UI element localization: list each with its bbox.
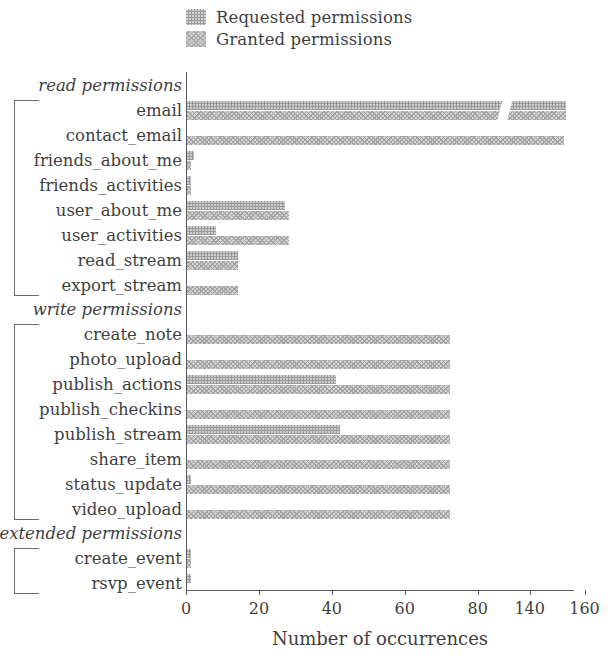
category-label: export_stream	[61, 278, 182, 295]
x-tick	[259, 590, 260, 595]
x-tick-label: 140	[514, 599, 545, 618]
bar-requested	[187, 251, 238, 260]
bar-row: status_update	[186, 472, 574, 497]
x-tick-label: 40	[322, 599, 342, 618]
category-label: contact_email	[66, 128, 182, 145]
x-tick	[585, 590, 586, 595]
bar-row: publish_stream	[186, 422, 574, 447]
legend-label-requested: Requested permissions	[216, 8, 412, 27]
bar-requested	[187, 574, 191, 583]
bar-granted	[187, 460, 450, 469]
bar-row: publish_checkins	[186, 397, 574, 422]
bar-granted	[187, 261, 238, 270]
group-bracket	[14, 548, 39, 594]
category-label: status_update	[65, 477, 182, 494]
bar-granted	[187, 410, 450, 419]
category-label: publish_actions	[52, 377, 182, 394]
category-label: share_item	[90, 452, 182, 469]
category-label: user_about_me	[56, 203, 182, 220]
bar-row: create_note	[186, 322, 574, 347]
x-tick-label: 160	[569, 599, 600, 618]
bar-row: rsvp_event	[186, 571, 574, 596]
category-label: photo_upload	[69, 352, 182, 369]
bar-granted	[187, 286, 238, 295]
bar-requested	[187, 151, 194, 160]
bar-granted	[187, 559, 191, 568]
chart-figure: Requested permissions Granted permission…	[0, 0, 610, 664]
category-label: publish_stream	[54, 427, 182, 444]
bar-granted	[187, 360, 450, 369]
bar-requested	[187, 176, 191, 185]
bar-granted	[187, 485, 450, 494]
bar-requested	[187, 425, 340, 434]
bar-granted	[187, 236, 289, 245]
x-tick-label: 20	[249, 599, 269, 618]
x-tick-label: 60	[395, 599, 415, 618]
bar-granted	[187, 161, 191, 170]
plot-area: read permissionsemailcontact_emailfriend…	[186, 72, 574, 590]
x-tick-label: 80	[467, 599, 487, 618]
bar-row: user_activities	[186, 223, 574, 248]
granted-swatch-icon	[186, 31, 206, 47]
bar-row: user_about_me	[186, 198, 574, 223]
bar-requested	[187, 226, 216, 235]
group-label: write permissions	[33, 302, 182, 319]
bar-row: video_upload	[186, 497, 574, 522]
x-tick	[332, 590, 333, 595]
category-label: friends_about_me	[34, 153, 182, 170]
bar-requested	[187, 201, 285, 210]
bar-row: friends_about_me	[186, 148, 574, 173]
group-label: extended permissions	[0, 526, 182, 543]
bar-row: read_stream	[186, 248, 574, 273]
legend-item-requested: Requested permissions	[186, 6, 412, 28]
bar-requested	[187, 375, 336, 384]
bar-row: share_item	[186, 447, 574, 472]
x-tick-label: 0	[181, 599, 191, 618]
category-label: video_upload	[72, 502, 182, 519]
bar-granted	[187, 385, 450, 394]
requested-swatch-icon	[186, 9, 206, 25]
group-bracket	[14, 100, 39, 296]
group-label: read permissions	[38, 78, 182, 95]
x-tick	[530, 590, 531, 595]
category-label: rsvp_event	[91, 576, 182, 593]
bar-row: email	[186, 98, 574, 123]
category-label: email	[136, 103, 182, 120]
category-label: user_activities	[61, 228, 182, 245]
legend-label-granted: Granted permissions	[216, 30, 392, 49]
group-bracket	[14, 324, 39, 520]
chart-legend: Requested permissions Granted permission…	[186, 6, 412, 50]
bar-granted	[187, 211, 289, 220]
bar-granted	[187, 510, 450, 519]
bar-granted	[187, 186, 191, 195]
x-axis-label: Number of occurrences	[186, 628, 574, 649]
category-label: friends_activities	[39, 178, 182, 195]
category-label: publish_checkins	[39, 402, 182, 419]
bar-row: create_event	[186, 546, 574, 571]
category-label: read_stream	[77, 253, 182, 270]
legend-item-granted: Granted permissions	[186, 28, 412, 50]
bar-row: publish_actions	[186, 372, 574, 397]
category-label: create_event	[75, 551, 182, 568]
bar-requested	[187, 475, 191, 484]
x-tick	[405, 590, 406, 595]
x-tick	[478, 590, 479, 595]
category-label: create_note	[84, 327, 182, 344]
bar-row: photo_upload	[186, 347, 574, 372]
x-tick	[186, 590, 187, 595]
bar-row: friends_activities	[186, 173, 574, 198]
bar-requested	[187, 549, 191, 558]
bar-row: export_stream	[186, 273, 574, 298]
bar-granted	[187, 136, 564, 145]
bar-row: contact_email	[186, 123, 574, 148]
bar-granted	[187, 435, 450, 444]
bar-granted	[187, 335, 450, 344]
